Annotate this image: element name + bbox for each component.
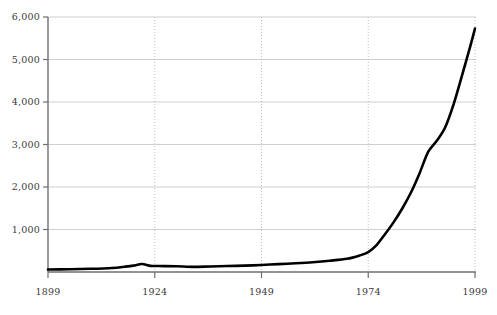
y-tick-label: 3,000 bbox=[12, 139, 40, 150]
x-tick-label: 1924 bbox=[130, 286, 180, 297]
x-tick-label: 1949 bbox=[237, 286, 287, 297]
axis-ticks bbox=[43, 17, 475, 278]
x-tick-label: 1899 bbox=[23, 286, 73, 297]
y-tick-label: 6,000 bbox=[12, 11, 40, 22]
line-chart: 1,0002,0003,0004,0005,0006,000 189919241… bbox=[0, 0, 497, 315]
y-tick-label: 2,000 bbox=[12, 181, 40, 192]
horizontal-gridlines bbox=[48, 17, 476, 230]
x-tick-label: 1999 bbox=[450, 286, 497, 297]
x-tick-label: 1974 bbox=[343, 286, 393, 297]
y-tick-label: 5,000 bbox=[12, 54, 40, 65]
y-tick-label: 4,000 bbox=[12, 96, 40, 107]
chart-canvas bbox=[0, 0, 497, 315]
y-tick-label: 1,000 bbox=[12, 224, 40, 235]
